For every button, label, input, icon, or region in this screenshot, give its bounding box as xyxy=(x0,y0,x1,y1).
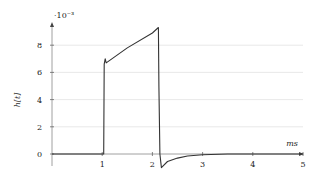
x-tick-label: 3 xyxy=(200,160,205,169)
tick-labels: 0246812345 xyxy=(37,41,306,169)
x-axis-label: ms xyxy=(286,139,298,148)
y-tick-label: 0 xyxy=(37,150,42,159)
x-tick-label: 5 xyxy=(300,160,305,169)
y-tick-label: 4 xyxy=(37,96,42,105)
y-scale-label: ·10⁻³ xyxy=(54,11,74,20)
y-tick-label: 6 xyxy=(37,68,42,77)
x-tick-label: 4 xyxy=(250,160,255,169)
y-axis-arrow-icon xyxy=(50,22,54,27)
y-axis-label: h[t] xyxy=(13,92,22,107)
y-tick-label: 2 xyxy=(37,123,42,132)
chart: 0246812345 h[t] ms ·10⁻³ xyxy=(0,0,311,177)
x-tick-label: 1 xyxy=(100,160,105,169)
y-tick-label: 8 xyxy=(37,41,42,50)
data-series xyxy=(52,28,303,168)
x-tick-label: 2 xyxy=(150,160,155,169)
grid-lines xyxy=(52,45,303,127)
axes xyxy=(50,22,304,166)
series-line xyxy=(52,28,303,168)
